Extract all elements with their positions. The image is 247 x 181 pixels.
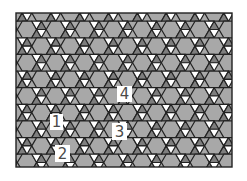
triangle-up-tile — [104, 179, 114, 181]
triangle-down-tile — [37, 0, 47, 5]
triangle-down-tile — [0, 46, 3, 54]
triangle-down-tile — [3, 154, 13, 162]
triangle-down-tile — [219, 5, 229, 13]
triangle-up-tile — [224, 5, 234, 13]
triangle-up-tile — [51, 5, 61, 13]
triangle-up-tile — [147, 0, 157, 5]
triangle-up-tile — [137, 171, 147, 179]
triangle-up-tile — [109, 171, 119, 179]
triangle-down-tile — [46, 5, 56, 13]
triangle-up-tile — [32, 0, 42, 5]
hexagon-tile — [32, 171, 51, 181]
triangle-up-tile — [80, 171, 90, 179]
triangle-up-tile — [3, 163, 13, 171]
triangle-up-tile — [205, 0, 215, 5]
triangle-down-tile — [190, 5, 200, 13]
hexagon-tile — [0, 154, 8, 171]
hexagon-tile — [75, 0, 94, 5]
triangle-up-tile — [61, 0, 71, 5]
hexagon-tile — [233, 38, 247, 55]
hexagon-tile — [190, 0, 209, 5]
hexagon-tile — [205, 171, 224, 181]
triangle-up-tile — [137, 5, 147, 13]
hexagon-tile — [233, 138, 247, 155]
triangle-down-tile — [0, 13, 3, 21]
triangle-up-tile — [219, 179, 229, 181]
triangle-up-tile — [109, 5, 119, 13]
hexagon-tile — [61, 171, 80, 181]
triangle-up-tile — [22, 5, 32, 13]
hexagon-tile — [233, 71, 247, 88]
triangle-up-tile — [233, 129, 243, 137]
hexagon-tile — [17, 0, 36, 5]
triangle-up-tile — [118, 0, 128, 5]
triangle-down-tile — [0, 79, 3, 87]
triangle-up-tile — [0, 171, 3, 179]
triangle-up-tile — [238, 121, 247, 129]
triangle-down-tile — [109, 179, 119, 181]
triangle-up-tile — [22, 171, 32, 179]
triangle-down-tile — [133, 171, 143, 179]
triangle-up-tile — [75, 179, 85, 181]
triangle-up-tile — [0, 71, 3, 79]
triangle-up-tile — [89, 0, 99, 5]
triangle-down-tile — [233, 54, 243, 62]
triangle-up-tile — [238, 88, 247, 96]
triangle-down-tile — [123, 0, 133, 5]
triangle-down-tile — [233, 88, 243, 96]
triangle-down-tile — [75, 5, 85, 13]
triangle-down-tile — [80, 179, 90, 181]
hexagon-tile — [219, 121, 238, 138]
triangle-up-tile — [233, 63, 243, 71]
triangle-down-tile — [161, 171, 171, 179]
label-text: 2 — [58, 146, 68, 162]
triangle-down-tile — [17, 5, 27, 13]
triangle-down-tile — [238, 163, 247, 171]
triangle-up-tile — [233, 0, 243, 5]
triangle-down-tile — [233, 154, 243, 162]
triangle-down-tile — [133, 5, 143, 13]
triangle-up-tile — [190, 179, 200, 181]
hexagon-tile — [176, 171, 195, 181]
triangle-up-tile — [51, 171, 61, 179]
triangle-up-tile — [233, 96, 243, 104]
hexagon-tile — [0, 21, 8, 38]
hexagon-tile — [3, 171, 22, 181]
hexagon-tile — [219, 154, 238, 171]
region-label-3: 3 — [112, 123, 127, 140]
triangle-up-tile — [233, 163, 243, 171]
triangle-up-tile — [161, 179, 171, 181]
hexagon-tile — [133, 0, 152, 5]
triangle-up-tile — [0, 138, 3, 146]
triangle-up-tile — [3, 63, 13, 71]
triangle-up-tile — [224, 171, 234, 179]
triangle-up-tile — [0, 104, 3, 112]
triangle-down-tile — [181, 0, 191, 5]
triangle-down-tile — [8, 0, 18, 5]
triangle-down-tile — [3, 54, 13, 62]
triangle-down-tile — [22, 179, 32, 181]
triangle-up-tile — [17, 179, 27, 181]
hexagon-tile — [46, 0, 65, 5]
triangle-down-tile — [161, 5, 171, 13]
triangle-up-tile — [195, 5, 205, 13]
triangle-down-tile — [0, 146, 3, 154]
triangle-down-tile — [219, 171, 229, 179]
hexagon-tile — [0, 88, 8, 105]
triangle-up-tile — [3, 96, 13, 104]
triangle-down-tile — [3, 21, 13, 29]
hexagon-tile — [219, 54, 238, 71]
triangle-down-tile — [65, 0, 75, 5]
triangle-down-tile — [233, 21, 243, 29]
label-text: 3 — [115, 124, 125, 140]
triangle-down-tile — [233, 121, 243, 129]
triangle-down-tile — [3, 121, 13, 129]
hexagon-tile — [0, 54, 8, 71]
triangle-down-tile — [166, 179, 176, 181]
hexagon-tile — [161, 0, 180, 5]
triangle-up-tile — [166, 5, 176, 13]
triangle-down-tile — [46, 171, 56, 179]
triangle-down-tile — [238, 0, 247, 5]
hexagon-tile — [219, 0, 238, 5]
triangle-up-tile — [0, 5, 3, 13]
